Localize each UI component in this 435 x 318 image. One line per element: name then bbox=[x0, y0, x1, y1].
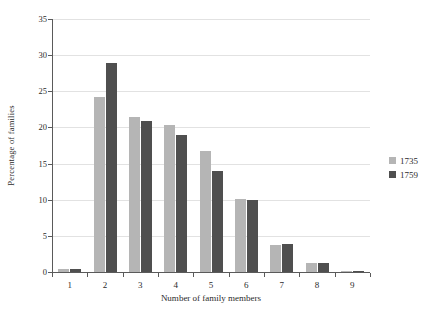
y-tick-label: 0 bbox=[25, 268, 52, 277]
x-tick-label: 2 bbox=[90, 280, 120, 291]
y-tick-label: 25 bbox=[25, 87, 52, 96]
x-tick-label: 1 bbox=[55, 280, 85, 291]
x-axis-line bbox=[52, 272, 370, 273]
bar-1759-4 bbox=[176, 135, 187, 272]
bar-1759-8 bbox=[318, 263, 329, 272]
y-tick-label: 5 bbox=[25, 232, 52, 241]
y-tick-label: 30 bbox=[25, 51, 52, 60]
bar-1735-9 bbox=[341, 271, 352, 272]
bar-1735-4 bbox=[164, 125, 175, 272]
bar-1759-2 bbox=[106, 63, 117, 272]
x-tick-mark bbox=[335, 273, 336, 277]
x-tick-mark bbox=[87, 273, 88, 277]
bar-1735-5 bbox=[200, 151, 211, 272]
y-tick-label: 35 bbox=[25, 15, 52, 24]
bar-1735-6 bbox=[235, 199, 246, 272]
legend-label: 1759 bbox=[400, 170, 418, 180]
x-tick-label: 7 bbox=[267, 280, 297, 291]
legend-item[interactable]: 1735 bbox=[389, 155, 435, 166]
legend-swatch-icon bbox=[389, 157, 396, 164]
x-tick-label: 3 bbox=[125, 280, 155, 291]
bar-1735-3 bbox=[129, 117, 140, 272]
y-tick-label: 10 bbox=[25, 196, 52, 205]
bar-1735-7 bbox=[270, 245, 281, 272]
bar-1735-2 bbox=[94, 97, 105, 272]
legend: 1735 1759 bbox=[389, 155, 435, 183]
bar-1735-1 bbox=[58, 269, 69, 272]
x-tick-label: 8 bbox=[302, 280, 332, 291]
y-tick-label: 20 bbox=[25, 123, 52, 132]
x-tick-mark bbox=[123, 273, 124, 277]
legend-label: 1735 bbox=[400, 156, 418, 166]
x-tick-mark bbox=[264, 273, 265, 277]
bar-1759-6 bbox=[247, 200, 258, 272]
x-tick-label: 4 bbox=[161, 280, 191, 291]
x-tick-mark bbox=[52, 273, 53, 277]
bars-container bbox=[52, 19, 370, 272]
bar-1759-1 bbox=[70, 269, 81, 272]
x-tick-mark bbox=[370, 273, 371, 277]
bar-1759-9 bbox=[353, 271, 364, 272]
x-tick-mark bbox=[299, 273, 300, 277]
y-tick-label: 15 bbox=[25, 160, 52, 169]
bar-1759-7 bbox=[282, 244, 293, 272]
y-axis-title: Percentage of families bbox=[4, 19, 18, 272]
legend-item[interactable]: 1759 bbox=[389, 169, 435, 180]
bar-1759-5 bbox=[212, 171, 223, 272]
x-tick-label: 6 bbox=[231, 280, 261, 291]
x-tick-label: 9 bbox=[337, 280, 367, 291]
x-tick-label: 5 bbox=[196, 280, 226, 291]
x-tick-mark bbox=[193, 273, 194, 277]
legend-swatch-icon bbox=[389, 171, 396, 178]
x-tick-mark bbox=[229, 273, 230, 277]
bar-1735-8 bbox=[306, 263, 317, 272]
x-axis-title: Number of family members bbox=[52, 293, 370, 304]
x-tick-mark bbox=[158, 273, 159, 277]
bar-chart: Percentage of families 05101520253035 12… bbox=[0, 0, 435, 318]
bar-1759-3 bbox=[141, 121, 152, 272]
